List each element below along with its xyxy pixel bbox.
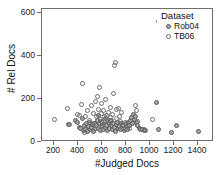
data-point-tb06 bbox=[99, 101, 104, 106]
legend-label: TB06 bbox=[174, 32, 194, 41]
data-point-tb06 bbox=[133, 103, 138, 108]
data-point-tb06 bbox=[150, 117, 155, 122]
data-point-tb06 bbox=[67, 122, 72, 127]
data-point-rob04 bbox=[154, 100, 159, 105]
data-point-tb06 bbox=[113, 60, 118, 65]
legend-marker-filled-circle-icon bbox=[166, 24, 171, 29]
data-point-tb06 bbox=[97, 85, 102, 90]
data-point-tb06 bbox=[119, 110, 124, 115]
data-point-tb06 bbox=[80, 81, 85, 86]
y-tick-label: 0 bbox=[5, 137, 35, 146]
data-point-rob04 bbox=[174, 123, 179, 128]
data-point-tb06 bbox=[65, 106, 70, 111]
y-tick-label: 600 bbox=[5, 8, 35, 17]
data-point-tb06 bbox=[135, 119, 140, 124]
data-point-tb06 bbox=[103, 97, 108, 102]
legend-title: Dataset bbox=[160, 10, 209, 21]
data-point-tb06 bbox=[82, 130, 87, 135]
y-tick-mark bbox=[37, 141, 41, 142]
data-point-tb06 bbox=[52, 117, 57, 122]
data-point-tb06 bbox=[123, 120, 128, 125]
legend-item-rob04[interactable]: Rob04 bbox=[160, 21, 209, 31]
y-axis-label: # Rel Docs bbox=[6, 29, 17, 109]
data-point-tb06 bbox=[111, 91, 116, 96]
legend-item-tb06[interactable]: TB06 bbox=[160, 31, 209, 41]
legend-label: Rob04 bbox=[174, 22, 199, 31]
data-point-tb06 bbox=[90, 121, 95, 126]
legend: Dataset Rob04 TB06 bbox=[157, 9, 211, 43]
data-point-rob04 bbox=[156, 127, 161, 132]
scatter-chart-figure: 600 400 200 0 200 400 600 800 1000 1200 … bbox=[0, 0, 221, 175]
data-point-tb06 bbox=[143, 128, 148, 133]
x-tick-label: 1400 bbox=[182, 146, 212, 155]
data-point-tb06 bbox=[93, 99, 98, 104]
x-axis-label: #Judged Docs bbox=[41, 158, 213, 169]
data-point-tb06 bbox=[79, 102, 84, 107]
data-point-tb06 bbox=[108, 105, 113, 110]
data-point-rob04 bbox=[169, 130, 174, 135]
data-point-rob04 bbox=[196, 129, 201, 134]
data-point-tb06 bbox=[85, 108, 90, 113]
data-point-tb06 bbox=[89, 103, 94, 108]
legend-marker-open-circle-icon bbox=[166, 34, 171, 39]
data-point-tb06 bbox=[127, 126, 132, 131]
data-point-tb06 bbox=[95, 94, 100, 99]
data-point-tb06 bbox=[134, 108, 139, 113]
data-point-rob04 bbox=[75, 120, 80, 125]
